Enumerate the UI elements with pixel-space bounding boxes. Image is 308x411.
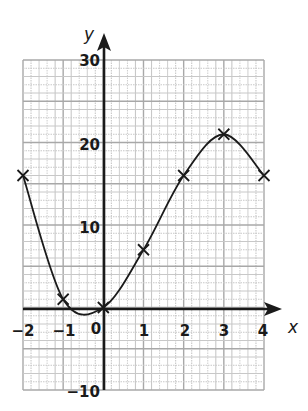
y-tick-label: 10 (79, 219, 100, 237)
x-tick-label: 1 (139, 322, 149, 340)
x-tick-label: −1 (52, 322, 75, 340)
x-tick-label: 3 (219, 322, 229, 340)
x-tick-label: −2 (11, 322, 34, 340)
x-axis-label: x (287, 317, 299, 337)
y-tick-label: 30 (79, 52, 100, 70)
grid (23, 60, 264, 390)
origin-label: 0 (91, 320, 101, 338)
x-tick-label: 4 (258, 322, 268, 340)
chart: −2 −1 0 1 2 3 4 30 20 10 −10 x y (0, 0, 308, 411)
y-tick-label: −10 (67, 383, 100, 401)
x-tick-label: 2 (180, 322, 190, 340)
y-axis-label: y (83, 24, 95, 44)
y-tick-label: 20 (79, 136, 100, 154)
